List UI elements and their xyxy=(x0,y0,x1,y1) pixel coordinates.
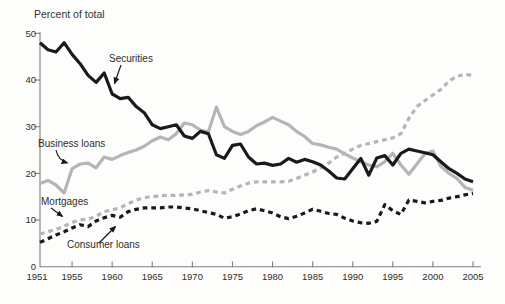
x-tick-label: 1951 xyxy=(26,271,47,282)
x-tick-label: 1975 xyxy=(222,271,243,282)
annotation-arrow-securities xyxy=(115,65,122,84)
chart-figure: 0102030405019511955196019651970197519801… xyxy=(0,0,505,304)
series-label-securities: Securities xyxy=(109,53,153,65)
series-label-mortgages: Mortgages xyxy=(41,196,88,208)
x-tick-label: 1990 xyxy=(342,271,363,282)
x-tick-label: 1985 xyxy=(302,271,323,282)
annotation-arrow-mortgages xyxy=(51,208,63,217)
series-line-securities xyxy=(40,43,473,182)
x-tick-label: 1965 xyxy=(142,271,163,282)
y-tick-label: 50 xyxy=(25,28,36,39)
annotation-arrow-business-loans xyxy=(56,150,68,163)
x-tick-label: 1995 xyxy=(382,271,403,282)
x-tick-label: 1960 xyxy=(102,271,123,282)
chart-canvas: 0102030405019511955196019651970197519801… xyxy=(0,0,505,304)
y-tick-label: 10 xyxy=(25,214,36,225)
chart-title: Percent of total xyxy=(34,8,105,20)
x-tick-label: 2000 xyxy=(422,271,443,282)
x-tick-label: 1970 xyxy=(182,271,203,282)
x-tick-label: 1955 xyxy=(62,271,83,282)
y-tick-label: 20 xyxy=(25,168,36,179)
y-tick-label: 40 xyxy=(25,74,36,85)
y-tick-label: 30 xyxy=(25,121,36,132)
x-tick-label: 2005 xyxy=(462,271,483,282)
series-label-consumer-loans: Consumer loans xyxy=(67,239,140,251)
series-line-mortgages xyxy=(40,74,473,234)
series-line-consumer-loans xyxy=(40,193,473,242)
x-tick-label: 1980 xyxy=(262,271,283,282)
series-label-business-loans: Business loans xyxy=(38,138,105,150)
